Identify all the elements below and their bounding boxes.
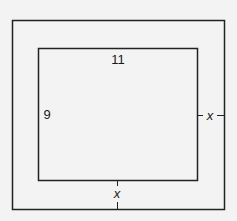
right-border-width-label: x xyxy=(206,108,214,123)
bottom-border-width-label: x xyxy=(113,186,121,201)
inner-height-label: 9 xyxy=(43,107,50,122)
inner-rectangle xyxy=(39,49,198,181)
inner-width-label: 11 xyxy=(111,52,125,67)
diagram-canvas: 11 9 x x xyxy=(0,0,237,221)
